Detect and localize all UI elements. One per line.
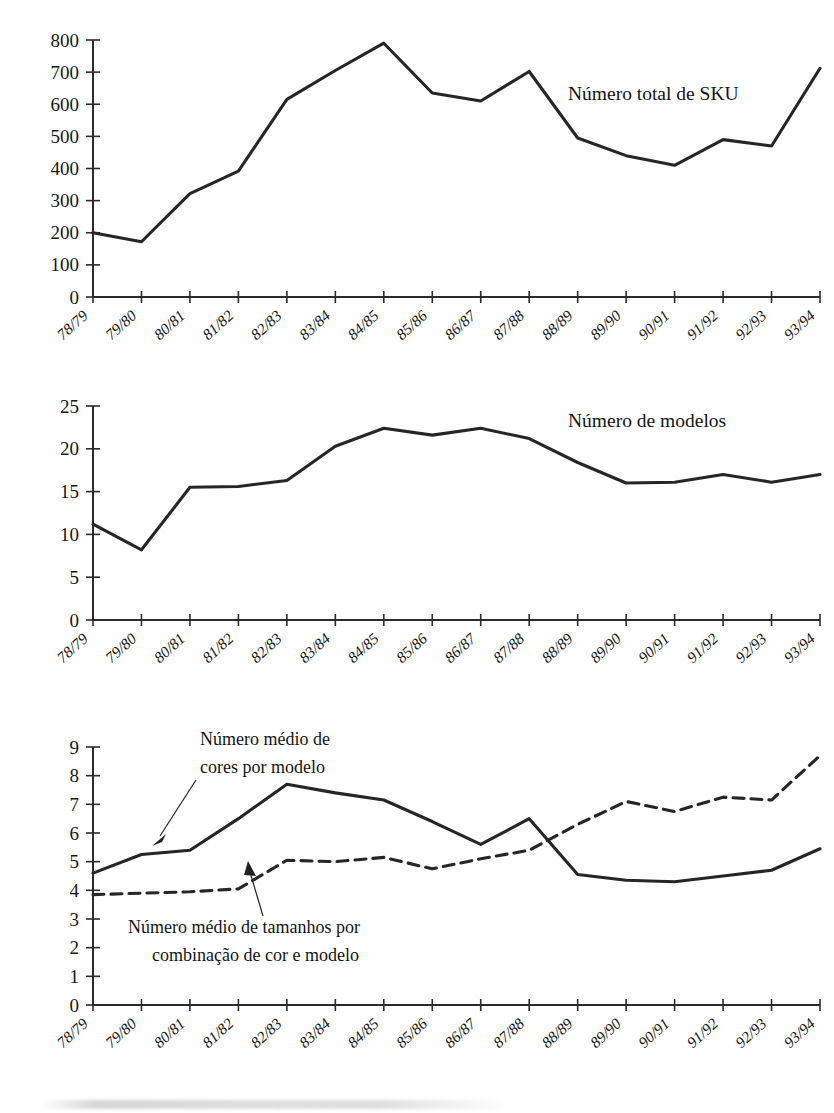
annotation-cores-por-modelo-line2: cores por modelo — [200, 757, 325, 777]
annotation-tamanhos-line1: Número médio de tamanhos por — [128, 917, 360, 937]
scan-artifact-smudge — [40, 1100, 510, 1109]
x-tick-label: 86/87 — [441, 629, 480, 666]
series-label-total-sku: Número total de SKU — [568, 83, 739, 104]
x-tick-label: 78/79 — [53, 629, 91, 665]
y-tick-label: 200 — [51, 222, 80, 243]
y-tick-label: 7 — [70, 794, 80, 815]
chart-1-x-axis — [93, 291, 820, 303]
x-tick-label: 91/92 — [683, 629, 721, 665]
annotation-tamanhos-line2: combinação de cor e modelo — [152, 945, 359, 965]
series-line-total-sku — [93, 43, 820, 242]
chart-panel-modelos: 0510152025 Número de modelos 78/7979/808… — [0, 382, 834, 720]
chart-1-y-axis: 0100200300400500600700800 — [51, 30, 101, 308]
x-tick-label: 85/86 — [393, 306, 431, 342]
y-tick-label: 8 — [70, 765, 80, 786]
x-tick-label: 88/89 — [538, 1014, 576, 1050]
x-tick-label: 78/79 — [53, 1014, 91, 1050]
y-tick-label: 0 — [70, 287, 80, 308]
y-tick-label: 100 — [51, 254, 80, 275]
y-tick-label: 5 — [70, 567, 80, 588]
x-tick-label: 89/90 — [587, 1014, 625, 1050]
x-tick-label: 93/94 — [780, 1014, 818, 1050]
y-tick-label: 15 — [60, 481, 79, 502]
chart-3-x-tick-labels: 78/7979/8080/8181/8282/8383/8484/8585/86… — [53, 1014, 818, 1051]
series-label-modelos: Número de modelos — [568, 410, 726, 431]
x-tick-label: 89/90 — [587, 629, 625, 665]
y-tick-label: 800 — [51, 30, 80, 51]
series-line-modelos — [93, 428, 820, 550]
x-tick-label: 82/83 — [247, 629, 285, 665]
x-tick-label: 91/92 — [683, 306, 721, 342]
x-tick-label: 90/91 — [635, 1015, 673, 1051]
x-tick-label: 87/88 — [490, 1014, 528, 1050]
y-tick-label: 1 — [70, 966, 80, 987]
y-tick-label: 600 — [51, 94, 80, 115]
x-tick-label: 79/80 — [102, 629, 140, 665]
leader-line-tamanhos — [244, 861, 263, 916]
x-tick-label: 83/84 — [296, 629, 334, 665]
x-tick-label: 92/93 — [732, 1014, 770, 1050]
chart-2-svg: 0510152025 Número de modelos 78/7979/808… — [0, 382, 834, 720]
x-tick-label: 89/90 — [587, 306, 625, 342]
y-tick-label: 700 — [51, 62, 80, 83]
y-tick-label: 5 — [70, 851, 80, 872]
chart-3-y-ticks: 0123456789 — [70, 737, 101, 1016]
y-tick-label: 10 — [60, 524, 79, 545]
y-tick-label: 0 — [70, 995, 80, 1016]
chart-3-y-axis: 0123456789 — [70, 737, 101, 1016]
x-tick-label: 84/85 — [344, 306, 382, 342]
series-line-cores-por-modelo — [93, 784, 820, 881]
chart-1-x-tick-labels: 78/7979/8080/8181/8282/8383/8484/8585/86… — [53, 306, 818, 343]
x-tick-label: 92/93 — [732, 629, 770, 665]
x-tick-label: 88/89 — [538, 629, 576, 665]
x-tick-label: 84/85 — [344, 1014, 382, 1050]
y-tick-label: 300 — [51, 190, 80, 211]
x-tick-label: 87/88 — [490, 306, 528, 342]
chart-1-svg: 0100200300400500600700800 Número total d… — [0, 0, 834, 382]
chart-3-x-axis — [93, 999, 820, 1011]
x-tick-label: 83/84 — [296, 306, 334, 342]
chart-2-y-axis: 0510152025 — [60, 396, 100, 631]
y-tick-label: 400 — [51, 158, 80, 179]
x-tick-label: 81/82 — [199, 1014, 237, 1050]
x-tick-label: 79/80 — [102, 306, 140, 342]
y-tick-label: 0 — [70, 610, 80, 631]
x-tick-label: 85/86 — [393, 629, 431, 665]
x-tick-label: 80/81 — [150, 1015, 188, 1051]
x-tick-label: 91/92 — [683, 1014, 721, 1050]
chart-panel-sku: 0100200300400500600700800 Número total d… — [0, 0, 834, 382]
x-tick-label: 92/93 — [732, 306, 770, 342]
x-tick-label: 81/82 — [199, 306, 237, 342]
x-tick-label: 79/80 — [102, 1014, 140, 1050]
annotation-cores-por-modelo-line1: Número médio de — [200, 729, 330, 749]
y-tick-label: 25 — [60, 396, 79, 417]
y-tick-label: 9 — [70, 737, 80, 758]
x-tick-label: 86/87 — [441, 1014, 480, 1051]
chart-2-x-tick-labels: 78/7979/8080/8181/8282/8383/8484/8585/86… — [53, 629, 818, 666]
x-tick-label: 84/85 — [344, 629, 382, 665]
x-tick-label: 82/83 — [247, 306, 285, 342]
x-tick-label: 87/88 — [490, 629, 528, 665]
x-tick-label: 80/81 — [150, 307, 188, 343]
x-tick-label: 81/82 — [199, 629, 237, 665]
chart-panel-cores-tamanhos: 0123456789 Número médio de cores por mod… — [0, 720, 834, 1113]
y-tick-label: 4 — [70, 880, 80, 901]
x-tick-label: 88/89 — [538, 306, 576, 342]
x-tick-label: 90/91 — [635, 630, 673, 666]
x-tick-label: 93/94 — [780, 306, 818, 342]
leader-line-cores-por-modelo — [152, 780, 196, 846]
x-tick-label: 82/83 — [247, 1014, 285, 1050]
chart-3-svg: 0123456789 Número médio de cores por mod… — [0, 720, 834, 1113]
y-tick-label: 20 — [60, 438, 79, 459]
x-tick-label: 85/86 — [393, 1014, 431, 1050]
y-tick-label: 6 — [70, 823, 80, 844]
y-tick-label: 3 — [70, 909, 80, 930]
y-tick-label: 500 — [51, 126, 80, 147]
x-tick-label: 93/94 — [780, 629, 818, 665]
y-tick-label: 2 — [70, 937, 80, 958]
x-tick-label: 83/84 — [296, 1014, 334, 1050]
x-tick-label: 90/91 — [635, 307, 673, 343]
x-tick-label: 78/79 — [53, 306, 91, 342]
x-tick-label: 80/81 — [150, 630, 188, 666]
chart-2-x-axis — [93, 614, 820, 626]
